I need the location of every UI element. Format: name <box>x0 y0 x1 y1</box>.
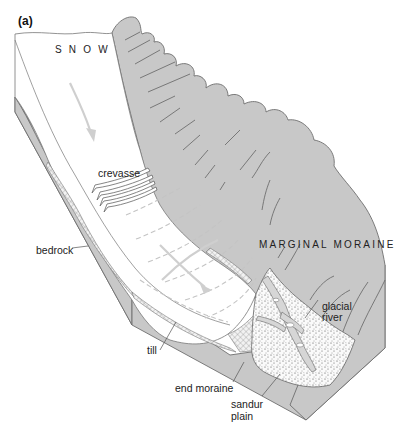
bedrock-label: bedrock <box>36 244 74 256</box>
glacier-block-diagram: (a) S N O W crevasse bedrock MARGINAL MO… <box>0 0 412 434</box>
panel-label: (a) <box>18 14 33 28</box>
marginal-moraine-label: MARGINAL MORAINE <box>259 239 396 250</box>
glacial-river-label-line2: river <box>322 311 343 323</box>
till-label: till <box>147 344 157 356</box>
snow-label: S N O W <box>55 44 110 55</box>
sandur-plain-label-line1: sandur <box>231 398 264 410</box>
crevasse-label: crevasse <box>98 167 140 179</box>
sandur-plain-label-line2: plain <box>231 410 253 422</box>
bedrock-leader <box>72 246 88 248</box>
end-moraine-label: end moraine <box>175 382 234 394</box>
